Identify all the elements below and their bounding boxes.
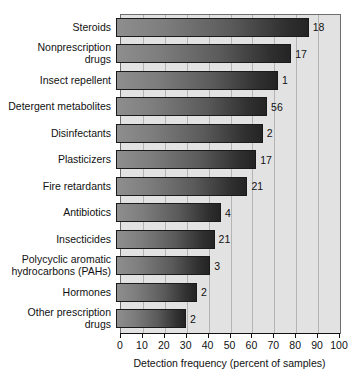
bar-value-label: 21 [219,233,231,245]
bar-value-label: 17 [260,154,272,166]
bar-value-label: 56 [271,101,283,113]
x-axis-tick [295,333,296,338]
category-label: Antibiotics [0,207,116,219]
bar-value-label: 2 [190,313,196,325]
bar-value-label: 3 [214,260,220,272]
x-axis-tick [317,333,318,338]
x-axis-tick [164,333,165,338]
bar-value-label: 18 [313,21,325,33]
x-axis-tick-label: 60 [246,339,258,351]
category-label: Nonprescription drugs [0,42,116,65]
x-axis-tick [339,333,340,338]
x-axis-tick [230,333,231,338]
gridline [296,15,297,333]
category-label: Fire retardants [0,181,116,193]
bar [116,256,210,275]
x-axis-tick [120,333,121,338]
x-axis-tick-label: 70 [267,339,279,351]
x-axis-tick [208,333,209,338]
category-label: Detergent metabolites [0,101,116,113]
bar [116,44,291,63]
bar [116,71,278,90]
bar [116,309,186,328]
x-axis-tick-label: 100 [330,339,348,351]
bar [116,97,267,116]
category-label: Disinfectants [0,128,116,140]
category-label: Other prescription drugs [0,307,116,330]
x-axis-tick [186,333,187,338]
category-label: Hormones [0,287,116,299]
bar [116,150,256,169]
bar-value-label: 17 [295,48,307,60]
bar-value-label: 4 [225,207,231,219]
chart-plot-area: Steroids 18 Nonprescription drugs 17 Ins… [0,0,358,377]
bar-value-label: 21 [251,180,263,192]
bar [116,177,247,196]
x-axis-tick-label: 90 [311,339,323,351]
bar [116,203,221,222]
x-axis-tick-label: 0 [117,339,123,351]
x-axis-title: Detection frequency (percent of samples) [120,357,339,369]
x-axis-tick [251,333,252,338]
x-axis-tick-label: 50 [224,339,236,351]
bar-chart-figure: Steroids 18 Nonprescription drugs 17 Ins… [0,0,358,377]
x-axis-tick-label: 10 [136,339,148,351]
gridline [318,15,319,333]
bar-value-label: 2 [201,286,207,298]
bar-value-label: 1 [282,74,288,86]
x-axis-tick-label: 40 [202,339,214,351]
x-axis-tick [142,333,143,338]
category-label: Steroids [0,22,116,34]
bar [116,124,263,143]
x-axis-tick-label: 30 [180,339,192,351]
bar [116,18,309,37]
category-label: Plasticizers [0,154,116,166]
bar-value-label: 2 [267,127,273,139]
bar [116,230,215,249]
category-label: Polycyclic aromatic hydrocarbons (PAHs) [0,254,116,277]
bar [116,283,197,302]
x-axis-tick [273,333,274,338]
bar-row: Steroids 18 [0,14,358,41]
category-label: Insect repellent [0,75,116,87]
category-label: Insecticides [0,234,116,246]
x-axis-tick-label: 20 [158,339,170,351]
x-axis-tick-label: 80 [289,339,301,351]
